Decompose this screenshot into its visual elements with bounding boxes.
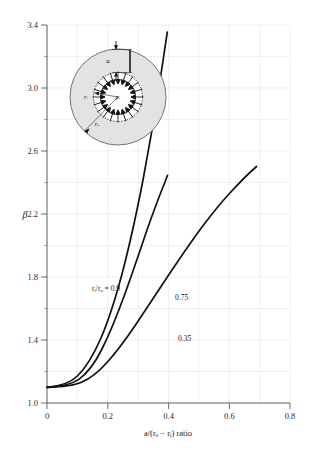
curve-ratio-0-75 <box>47 175 168 387</box>
y-tick-label: 3.4 <box>27 20 38 30</box>
y-tick-label: 1.4 <box>27 335 38 345</box>
y-axis-ticks <box>41 25 47 403</box>
y-axis-tick-labels: 3.4 3.0 2.6 2.2 1.8 1.4 1.0 <box>27 20 38 408</box>
inner-radius-label: rᵢ <box>84 93 88 101</box>
x-tick-label: 0.2 <box>102 411 113 421</box>
x-tick-label: 0 <box>45 411 49 421</box>
curve-label-ratio-0-75: 0.75 <box>175 293 188 302</box>
curve-labels: rᵢ/rₒ = 0.9 0.75 0.35 <box>92 284 191 343</box>
beta-stress-intensity-chart: 3.4 3.0 2.6 2.2 1.8 1.4 1.0 0 0.2 0.4 0.… <box>0 0 309 450</box>
y-tick-label: 2.2 <box>27 209 38 219</box>
x-tick-label: 0.6 <box>224 411 235 421</box>
y-tick-label: 2.6 <box>27 146 38 156</box>
y-tick-label: 3.0 <box>27 83 38 93</box>
x-tick-label: 0.8 <box>285 411 296 421</box>
chart-figure: 3.4 3.0 2.6 2.2 1.8 1.4 1.0 0 0.2 0.4 0.… <box>0 0 309 450</box>
crack-length-label: a <box>106 57 110 65</box>
x-axis-title: a/(rₒ − rᵢ) ratio <box>144 428 192 438</box>
x-axis-ticks <box>47 403 290 409</box>
outer-radius-label: rₒ <box>95 120 100 128</box>
y-tick-label: 1.8 <box>27 272 38 282</box>
y-tick-label: 1.0 <box>27 398 38 408</box>
x-tick-label: 0.4 <box>163 411 174 421</box>
curve-label-ratio-0-35: 0.35 <box>178 334 191 343</box>
curve-label-ratio-0-9: rᵢ/rₒ = 0.9 <box>92 284 120 293</box>
x-axis-tick-labels: 0 0.2 0.4 0.6 0.8 <box>45 411 295 421</box>
y-axis-title: β <box>22 209 28 220</box>
